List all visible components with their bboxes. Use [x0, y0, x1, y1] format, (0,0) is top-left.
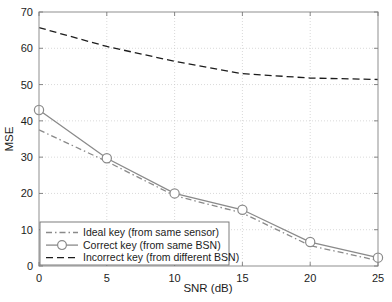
y-tick-label: 20 — [21, 187, 33, 199]
series-marker — [238, 205, 247, 214]
y-tick-label: 50 — [21, 79, 33, 91]
x-axis-title: SNR (dB) — [183, 282, 232, 294]
x-tick-label: 5 — [104, 272, 110, 284]
figure-canvas: 0510152025010203040506070 SNR (dB) MSE I… — [0, 0, 392, 302]
x-tick-label: 20 — [304, 272, 316, 284]
x-tick-label: 15 — [236, 272, 248, 284]
x-tick-label: 0 — [36, 272, 42, 284]
y-tick-label: 30 — [21, 151, 33, 163]
legend-entry-label: Incorrect key (from different BSN) — [83, 251, 239, 263]
y-axis-title: MSE — [3, 126, 15, 151]
chart-legend: Ideal key (from same sensor)Correct key … — [40, 222, 239, 265]
legend-sample-marker — [58, 241, 67, 250]
y-tick-label: 70 — [21, 6, 33, 18]
y-tick-label: 0 — [27, 260, 33, 272]
legend-entry-label: Ideal key (from same sensor) — [83, 226, 219, 238]
series-marker — [170, 189, 179, 198]
x-tick-label: 25 — [372, 272, 384, 284]
series-marker — [306, 237, 315, 246]
x-tick-label: 10 — [168, 272, 180, 284]
legend-entry-label: Correct key (from same BSN) — [83, 239, 221, 251]
mse-vs-snr-chart: 0510152025010203040506070 SNR (dB) MSE I… — [0, 0, 392, 302]
y-tick-label: 60 — [21, 42, 33, 54]
y-tick-label: 10 — [21, 224, 33, 236]
y-tick-label: 40 — [21, 115, 33, 127]
series-marker — [102, 154, 111, 163]
